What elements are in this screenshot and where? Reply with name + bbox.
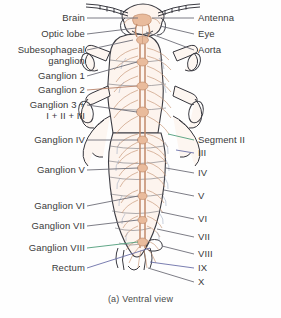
label-segment-2: Segment II [198,134,245,145]
label-segment-9: IX [198,262,207,273]
label-ganglion-4: Ganglion IV [34,134,85,145]
anatomical-figure: .bo { fill:#fdf4ee; stroke:#3b3b42; stro… [0,0,281,318]
label-ganglion-3-line1: Ganglion 3 + [30,99,85,110]
label-segment-9-text: IX [198,262,207,273]
leader-segment-9 [150,262,194,268]
label-brain: Brain [62,12,85,23]
label-rectum-text: Rectum [52,262,85,273]
label-brain-text: Brain [62,12,85,23]
label-ganglion-3-line2: I + II + III [30,110,85,121]
label-segment-3-text: III [198,147,206,158]
label-segment-10-text: X [198,276,204,287]
label-ganglion-7: Ganglion VII [32,220,85,231]
label-segment-7-text: VII [198,231,210,242]
label-ganglion-3: Ganglion 3 + I + II + III [30,99,85,121]
label-ganglion-4-text: Ganglion IV [34,134,85,145]
label-segment-5-text: V [198,190,204,201]
label-optic-lobe: Optic lobe [41,28,85,39]
leader-segment-3 [176,150,194,153]
label-ganglion-1-text: Ganglion 1 [38,70,85,81]
leader-optic-lobe [87,28,136,34]
label-aorta: Aorta [198,44,221,55]
leader-segment-5 [164,190,194,196]
label-aorta-text: Aorta [198,44,221,55]
label-segment-10: X [198,276,204,287]
leader-eye [160,26,194,34]
label-segment-8: VIII [198,248,213,259]
label-optic-lobe-text: Optic lobe [41,28,85,39]
label-segment-5: V [198,190,204,201]
label-subesophageal-line1: Subesophageal [18,44,85,55]
leader-rectum [87,248,150,268]
label-ganglion-1: Ganglion 1 [38,70,85,81]
leader-segment-7 [157,229,194,237]
leader-segment-6 [161,212,194,219]
label-segment-2-text: Segment II [198,134,245,145]
label-ganglion-8-text: Ganglion VIII [29,242,85,253]
label-segment-4: IV [198,167,207,178]
label-segment-8-text: VIII [198,248,213,259]
leader-aorta [146,32,194,50]
label-ganglion-7-text: Ganglion VII [32,220,85,231]
label-rectum: Rectum [52,262,85,273]
leader-subesophageal [87,40,133,50]
leader-segment-10 [148,268,194,282]
label-antenna: Antenna [198,12,234,23]
leader-segment-8 [162,246,194,254]
label-ganglion-2: Ganglion 2 [38,84,85,95]
label-ganglion-8: Ganglion VIII [29,242,85,253]
label-segment-6-text: VI [198,213,207,224]
label-subesophageal-line2: ganglion [18,55,85,66]
label-ganglion-6-text: Ganglion VI [34,200,85,211]
leader-ganglion-1 [87,62,137,76]
label-ganglion-2-text: Ganglion 2 [38,84,85,95]
leader-segment-4 [166,168,194,173]
leader-ganglion-7 [87,220,138,226]
leader-ganglion-3 [87,105,137,112]
leader-ganglion-2 [87,86,137,90]
label-segment-3: III [198,147,206,158]
label-subesophageal-ganglion: Subesophageal ganglion [18,44,85,66]
label-segment-6: VI [198,213,207,224]
label-ganglion-6: Ganglion VI [34,200,85,211]
leader-ganglion-5 [87,168,138,170]
label-eye-text: Eye [198,28,215,39]
label-eye: Eye [198,28,215,39]
label-antenna-text: Antenna [198,12,234,23]
figure-caption: (a) Ventral view [0,294,281,304]
leader-ganglion-6 [87,196,138,206]
leader-ganglion-8 [87,242,138,248]
label-segment-7: VII [198,231,210,242]
leader-segment-2 [168,134,194,140]
label-ganglion-5-text: Ganglion V [37,164,85,175]
label-ganglion-5: Ganglion V [37,164,85,175]
label-segment-4-text: IV [198,167,207,178]
